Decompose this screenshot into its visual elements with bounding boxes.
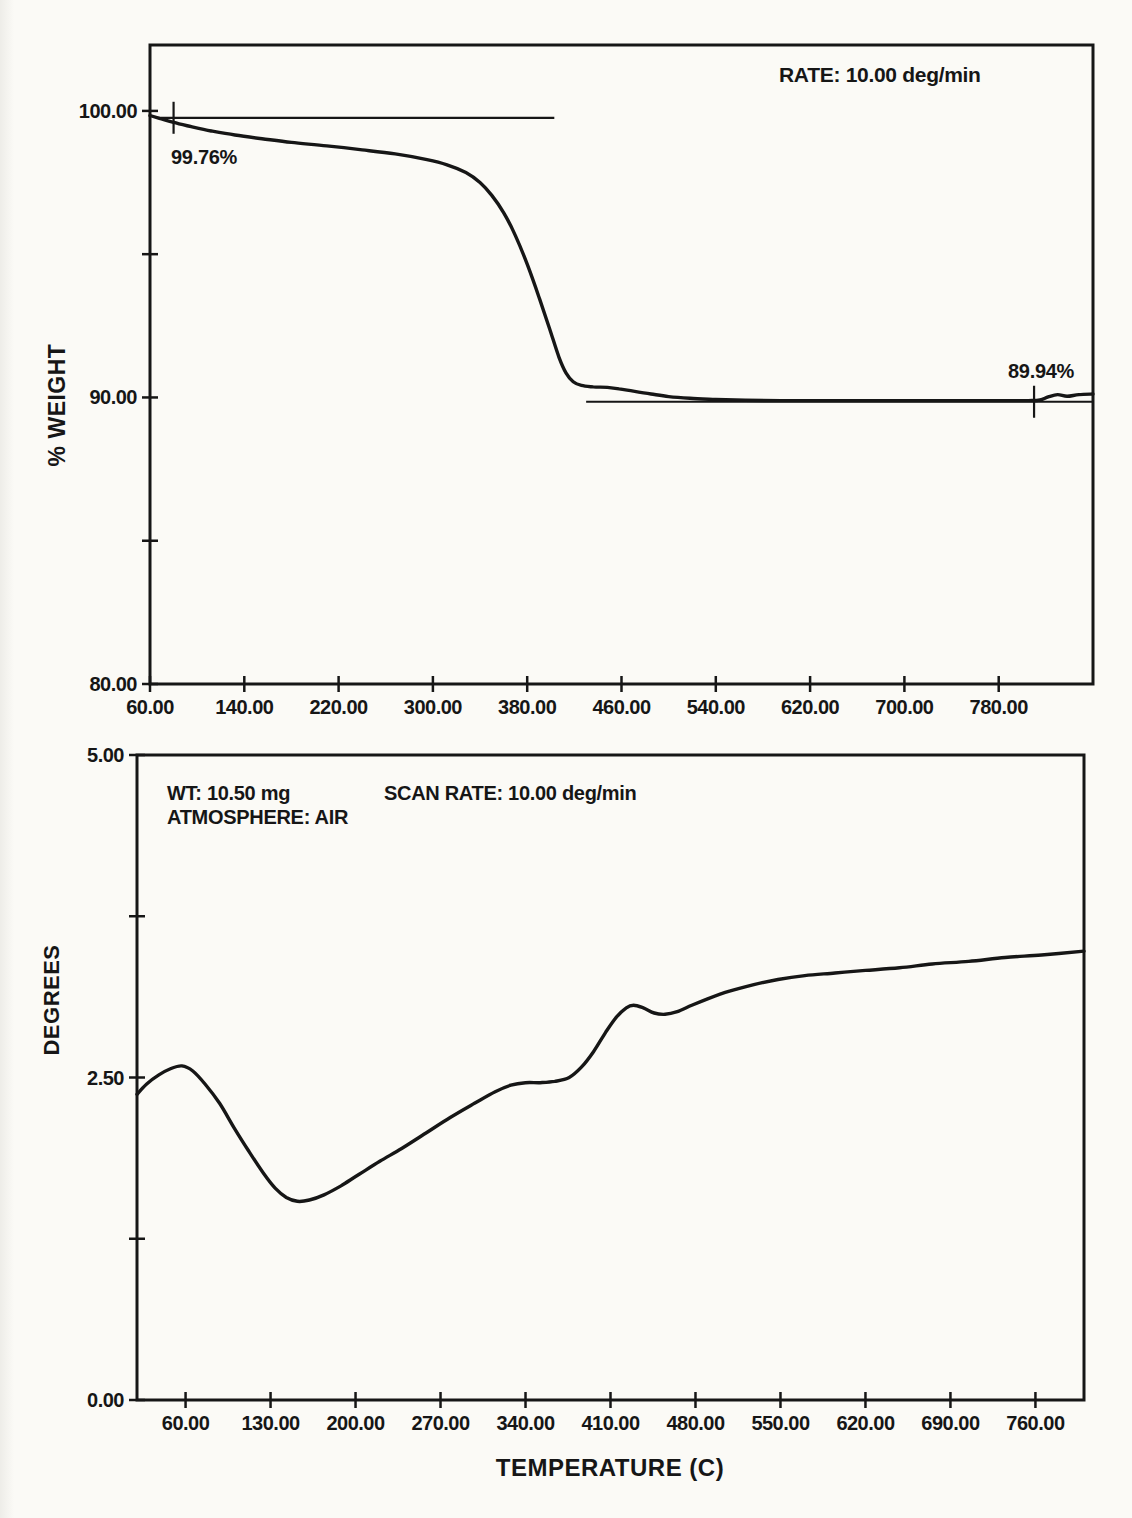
dta-degrees-trace-x-tick-label: 620.00 — [836, 1412, 895, 1434]
dta-degrees-trace-x-tick-label: 270.00 — [411, 1412, 470, 1434]
tga-weight-thermogram-y-tick-label: 80.00 — [89, 673, 137, 695]
dta-degrees-trace-y-tick-label: 2.50 — [87, 1067, 124, 1089]
tga-weight-thermogram-y-tick-label: 100.00 — [79, 100, 138, 122]
temperature-x-axis-title: TEMPERATURE (C) — [496, 1454, 724, 1482]
dta-scan-rate-annotation: SCAN RATE: 10.00 deg/min — [384, 782, 636, 805]
tga-weight-thermogram-y-tick-label: 90.00 — [89, 386, 137, 408]
tga-weight-thermogram-x-tick-label: 780.00 — [970, 696, 1029, 718]
tga-weight-thermogram-curve — [150, 116, 1093, 401]
dta-degrees-trace-x-tick-label: 410.00 — [581, 1412, 640, 1434]
tga-y-axis-title: % WEIGHT — [44, 344, 71, 467]
dta-degrees-trace-y-tick-label: 0.00 — [87, 1389, 124, 1411]
dta-degrees-trace-x-tick-label: 550.00 — [751, 1412, 810, 1434]
tga-weight-thermogram-x-tick-label: 700.00 — [875, 696, 934, 718]
tga-final-weight-annotation: 89.94% — [1008, 360, 1074, 383]
dta-degrees-trace-x-tick-label: 760.00 — [1006, 1412, 1065, 1434]
dta-sample-weight-annotation: WT: 10.50 mg — [167, 782, 290, 805]
tga-weight-thermogram-x-tick-label: 60.00 — [126, 696, 174, 718]
dta-degrees-trace-y-tick-label: 5.00 — [87, 744, 124, 766]
dta-degrees-trace-frame — [137, 755, 1084, 1400]
dta-y-axis-title: DEGREES — [39, 944, 65, 1055]
dta-atmosphere-annotation: ATMOSPHERE: AIR — [167, 806, 348, 829]
tga-weight-thermogram-x-tick-label: 380.00 — [498, 696, 557, 718]
scanned-thermogram-page: 60.00140.00220.00300.00380.00460.00540.0… — [0, 0, 1132, 1518]
tga-rate-annotation: RATE: 10.00 deg/min — [779, 63, 981, 87]
thermogram-svg: 60.00140.00220.00300.00380.00460.00540.0… — [0, 0, 1132, 1518]
tga-weight-thermogram-x-tick-label: 220.00 — [310, 696, 369, 718]
dta-degrees-trace-curve — [137, 951, 1084, 1201]
tga-initial-weight-annotation: 99.76% — [171, 146, 237, 169]
dta-degrees-trace-x-tick-label: 690.00 — [921, 1412, 980, 1434]
dta-degrees-trace-x-tick-label: 200.00 — [326, 1412, 385, 1434]
tga-weight-thermogram-x-tick-label: 540.00 — [687, 696, 746, 718]
tga-weight-thermogram-x-tick-label: 140.00 — [215, 696, 274, 718]
dta-degrees-trace-x-tick-label: 130.00 — [241, 1412, 300, 1434]
dta-degrees-trace-x-tick-label: 480.00 — [666, 1412, 725, 1434]
tga-weight-thermogram-x-tick-label: 620.00 — [781, 696, 840, 718]
tga-weight-thermogram-x-tick-label: 300.00 — [404, 696, 463, 718]
dta-degrees-trace-x-tick-label: 60.00 — [162, 1412, 210, 1434]
tga-weight-thermogram-x-tick-label: 460.00 — [592, 696, 651, 718]
dta-degrees-trace-x-tick-label: 340.00 — [496, 1412, 555, 1434]
